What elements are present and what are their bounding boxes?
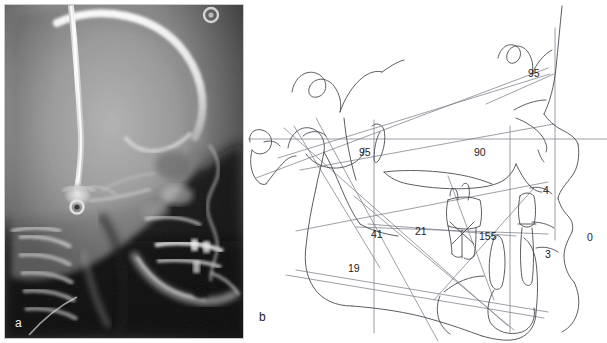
posterior-border [251,150,266,185]
measurement-label-upper-incisor-angle: 95 [359,147,371,158]
sella-outline [292,72,341,112]
panel-a-radiograph: a [4,4,244,339]
figure-container: a [0,0,607,343]
symphysis-inner [488,290,535,334]
cranial-base-line [340,71,382,112]
palate-floor [384,172,504,189]
measurement-label-palatal-plane-angle: 90 [474,147,486,158]
condyle-outline [250,130,272,154]
maxillary-tuberosity [306,148,364,168]
cephalometric-tracing-drawing [248,0,607,343]
forehead-profile [544,6,562,114]
radiograph-image [5,5,243,338]
measurement-label-gonial-angle: 41 [371,229,383,240]
symphysis-anterior [524,238,538,312]
upper-incisor [518,193,536,285]
measurement-label-mandibular-plane-angle: 19 [348,263,360,274]
panel-a-letter: a [15,317,22,329]
molar-tooth [447,183,482,259]
chin-profile [562,282,579,332]
lower-lip-profile [564,232,574,282]
lower-incisor [489,236,505,290]
mandible-lower-border [352,306,482,336]
measurement-label-upper-lip-measure: 4 [543,185,549,196]
gonial-angle-outline [305,188,352,306]
panel-b-letter: b [259,311,266,323]
panel-b-tracing: 95 95 90 4 41 21 155 3 0 19 b [248,0,607,343]
measurement-label-lower-incisor-angle: 21 [415,226,427,237]
measurement-label-nasolabial-angle: 95 [528,68,540,79]
upper-lip-profile [558,198,573,232]
measurement-label-interincisal-angle: 155 [479,231,497,242]
measurement-label-chin-measure: 0 [587,232,593,243]
nose-tip-subnasale [558,144,579,198]
measurement-label-lower-lip-measure: 3 [545,249,551,260]
nose-profile [544,114,578,144]
